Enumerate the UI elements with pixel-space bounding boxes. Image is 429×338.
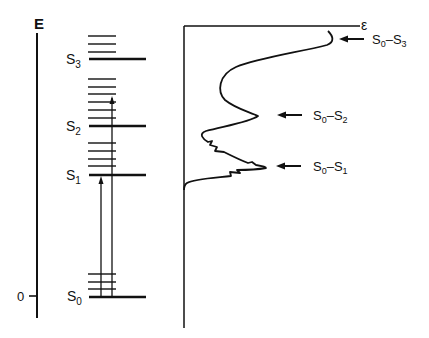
arrow-left-icon <box>277 112 286 119</box>
arrow-left-icon <box>339 36 348 43</box>
state-labels: S3 S2 S1 S0 <box>66 51 82 307</box>
band-labels: S0–S3 S0–S2 S0–S1 <box>313 32 407 176</box>
band-label-s0-s1: S0–S1 <box>313 159 348 176</box>
arrowhead-up-icon <box>99 176 104 184</box>
absorption-spectrum-curve <box>184 31 332 190</box>
arrowhead-up-icon <box>110 96 115 104</box>
state-label-s1: S1 <box>66 167 81 186</box>
state-label-s3: S3 <box>66 51 81 70</box>
energy-axis-label: E <box>34 15 44 32</box>
state-label-s2: S2 <box>66 118 81 137</box>
band-label-s0-s2: S0–S2 <box>313 108 348 125</box>
absorption-diagram: E 0 S3 S2 S1 S0 ε S0–S <box>0 0 429 338</box>
epsilon-label: ε <box>361 17 367 33</box>
band-label-s0-s3: S0–S3 <box>372 32 407 49</box>
arrow-left-icon <box>276 163 285 170</box>
zero-label: 0 <box>17 289 24 304</box>
state-label-s0: S0 <box>67 288 82 307</box>
band-pointers <box>276 36 364 170</box>
